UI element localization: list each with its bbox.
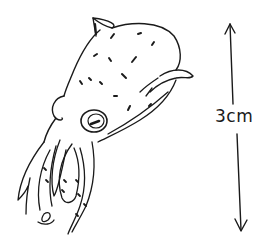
scale-label: 3cm [214, 106, 254, 126]
head-bump [44, 96, 64, 142]
cuttlefish-drawing [18, 18, 193, 234]
scale-arrow-line-top [230, 24, 233, 104]
fin-shading [95, 24, 96, 34]
arms [18, 140, 94, 234]
mantle-underside [98, 80, 176, 142]
scale-bar [225, 24, 247, 231]
eye-pupil [91, 121, 99, 124]
skin-spots [80, 33, 154, 110]
eye-outline [81, 110, 107, 132]
scale-arrow-line-bottom [237, 134, 241, 230]
